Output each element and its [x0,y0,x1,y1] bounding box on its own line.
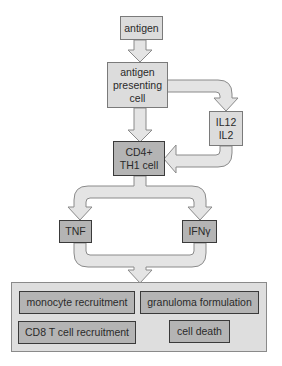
antigen-node: antigen [120,16,163,40]
cd4-label-line-1: CD4+ [125,146,152,159]
tnf-node: TNF [59,220,92,243]
antigen-presenting-cell-node: antigen presenting cell [107,62,168,108]
outcome-label: CD8 T cell recruitment [25,326,129,339]
antigen-label: antigen [124,22,158,35]
outcome-label: cell death [177,325,222,338]
ifn-gamma-label: IFNγ [188,225,210,238]
outcome-cd8-t-cell-recruitment: CD8 T cell recruitment [18,321,136,344]
outcome-label: monocyte recruitment [27,296,128,309]
arrow-antigen-to-apc [128,40,152,62]
tnf-label: TNF [65,225,85,238]
outcome-cell-death: cell death [169,320,230,343]
apc-label-line-2: presenting [113,79,162,92]
arrow-apc-to-il [167,80,238,111]
arrow-apc-to-cd4 [128,108,152,142]
arrow-merge-to-panel [74,243,206,283]
outcome-label: granuloma formulation [147,296,251,309]
flowchart: antigen antigen presenting cell IL12 IL2… [0,0,282,366]
arrow-cd4-split [68,176,212,220]
il2-label: IL2 [219,129,234,142]
outcome-monocyte-recruitment: monocyte recruitment [19,291,135,314]
outcome-granuloma-formulation: granuloma formulation [140,291,259,314]
cd4-th1-cell-node: CD4+ TH1 cell [113,141,165,176]
apc-label-line-1: antigen [120,66,154,79]
cd4-label-line-2: TH1 cell [120,159,159,172]
arrow-il-to-cd4 [164,145,232,173]
apc-label-line-3: cell [130,92,146,105]
il12-label: IL12 [216,116,236,129]
il12-il2-node: IL12 IL2 [209,111,243,146]
ifn-gamma-node: IFNγ [182,220,217,243]
